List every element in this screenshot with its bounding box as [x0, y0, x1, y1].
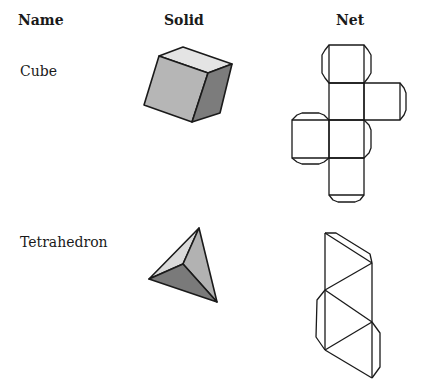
tab: [372, 322, 380, 378]
net-face-top: [329, 45, 364, 83]
net-face-bottom: [329, 158, 364, 195]
net-edge: [325, 290, 372, 322]
net-face-3: [329, 120, 364, 158]
net-edge: [325, 233, 372, 263]
net-face-left: [292, 120, 329, 158]
tab: [364, 120, 371, 158]
net-face-right: [364, 83, 400, 120]
tab: [292, 113, 329, 120]
net-edge: [325, 350, 372, 378]
tetrahedron-solid-icon: [149, 228, 217, 302]
tab: [364, 45, 371, 83]
net-edge: [325, 322, 372, 350]
tab: [316, 290, 325, 350]
cube-solid-icon: [144, 47, 232, 122]
tab: [329, 195, 364, 202]
tab: [292, 158, 329, 164]
cube-net-icon: [292, 45, 406, 202]
net-edge: [325, 263, 372, 290]
tab: [322, 45, 329, 83]
net-face-2: [329, 83, 364, 120]
tetrahedron-net-icon: [316, 233, 380, 378]
tab: [400, 83, 406, 120]
